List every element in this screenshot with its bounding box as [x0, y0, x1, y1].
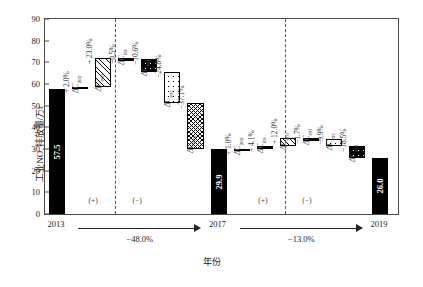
period-arrow: −48.0%	[78, 224, 201, 234]
x-axis-label: 年份	[0, 255, 423, 268]
segment-effect-label: ΔCenl	[302, 129, 313, 145]
plot-area: 0102030405060708090 57.5+ 2.0%ΔCpop+ 23.…	[44, 18, 399, 215]
effect-symbol: ΔC	[163, 98, 172, 107]
period-arrow-line	[240, 228, 357, 229]
segment-pct-label: −24.8%	[154, 54, 163, 78]
positive-sign-marker: (+)	[89, 196, 98, 205]
segment-pct-label: + 1.0%	[224, 133, 233, 155]
y-tick-label: 30	[32, 145, 41, 154]
positive-sign-marker: (+)	[258, 196, 267, 205]
y-tick-mark	[45, 84, 49, 85]
segment-pct-label: + 2.0%	[62, 71, 71, 93]
effect-symbol: ΔC	[302, 135, 311, 144]
y-tick-label: 60	[32, 80, 41, 89]
effect-subscript: emi	[352, 144, 358, 152]
period-arrow-line	[78, 228, 195, 229]
effect-symbol: ΔC	[325, 140, 334, 149]
negative-sign-marker: (−)	[133, 196, 142, 205]
effect-symbol: ΔC	[140, 67, 149, 76]
segment-effect-label: ΔCenc	[163, 90, 174, 107]
effect-symbol: ΔC	[94, 81, 103, 90]
period-divider	[285, 19, 286, 214]
period-divider	[115, 19, 116, 214]
effect-subscript: pop	[237, 138, 243, 146]
effect-symbol: ΔC	[233, 146, 242, 155]
effect-symbol: ΔC	[186, 144, 195, 153]
period-total-label: −48.0%	[126, 234, 153, 244]
anchor-bar-2017[interactable]: 29.9	[211, 149, 227, 214]
x-tick-label-2013: 2013	[48, 219, 65, 229]
segment-pct-label: + 4.1%	[247, 130, 256, 152]
y-tick-label: 50	[32, 101, 41, 110]
anchor-bar-value: 26.0	[375, 178, 385, 193]
effect-subscript: eco	[99, 74, 105, 81]
effect-subscript: emi	[191, 136, 197, 144]
y-tick-label: 0	[36, 210, 40, 219]
y-tick-label: 20	[32, 166, 41, 175]
effect-symbol: ΔC	[117, 55, 126, 64]
effect-subscript: enc	[168, 90, 174, 97]
y-tick-mark	[45, 40, 49, 41]
y-tick-label: 70	[32, 58, 41, 67]
segment-effect-label: ΔCins	[117, 49, 128, 65]
y-tick-label: 10	[32, 188, 41, 197]
x-tick-label-2017: 2017	[209, 219, 226, 229]
segment-effect-label: ΔCenc	[325, 133, 336, 150]
effect-symbol: ΔC	[256, 143, 265, 152]
effect-symbol: ΔC	[71, 84, 80, 93]
effect-symbol: ΔC	[348, 152, 357, 161]
effect-subscript: ins	[260, 137, 266, 143]
segment-pct-label: + 23.0%	[85, 39, 94, 64]
y-tick-label: 90	[32, 15, 41, 24]
segment-effect-label: ΔCeco	[94, 74, 105, 91]
segment-pct-label: + 12.0%	[270, 119, 279, 144]
segment-pct-label: −10.6%	[131, 41, 140, 65]
anchor-bar-value: 57.5	[52, 144, 62, 159]
effect-subscript: enl	[145, 60, 151, 67]
y-tick-mark	[45, 62, 49, 63]
segment-effect-label: ΔCpop	[71, 76, 82, 94]
segment-effect-label: ΔCemi	[348, 144, 359, 162]
segment-effect-label: ΔCenl	[140, 60, 151, 76]
anchor-bar-2013[interactable]: 57.5	[49, 89, 65, 214]
segment-effect-label: ΔCemi	[186, 136, 197, 154]
segment-pct-label: −37.1%	[177, 85, 186, 109]
period-arrow-head	[356, 224, 363, 232]
anchor-bar-value: 29.9	[214, 174, 224, 189]
segment-effect-label: ΔCins	[256, 137, 267, 153]
chart-root: 工业NOx排放量/万t 0102030405060708090 57.5+ 2.…	[0, 0, 423, 287]
segment-effect-label: ΔCpop	[233, 138, 244, 156]
effect-subscript: pop	[76, 76, 82, 84]
effect-symbol: ΔC	[279, 141, 288, 150]
y-tick-label: 40	[32, 123, 41, 132]
effect-subscript: enl	[306, 129, 312, 136]
x-tick-label-2019: 2019	[371, 219, 388, 229]
period-total-label: −13.0%	[288, 234, 315, 244]
y-tick-label: 80	[32, 36, 41, 45]
anchor-bar-2019[interactable]: 26.0	[372, 158, 388, 214]
negative-sign-marker: (−)	[302, 196, 311, 205]
effect-subscript: ins	[122, 49, 128, 55]
period-arrow-head	[194, 224, 201, 232]
segment-pct-label: −9.9%	[316, 125, 325, 145]
y-tick-mark	[45, 19, 49, 20]
segment-pct-label: −1.7%	[293, 124, 302, 144]
period-arrow: −13.0%	[240, 224, 363, 234]
segment-pct-label: −18.5%	[339, 128, 348, 152]
effect-subscript: enc	[329, 133, 335, 140]
